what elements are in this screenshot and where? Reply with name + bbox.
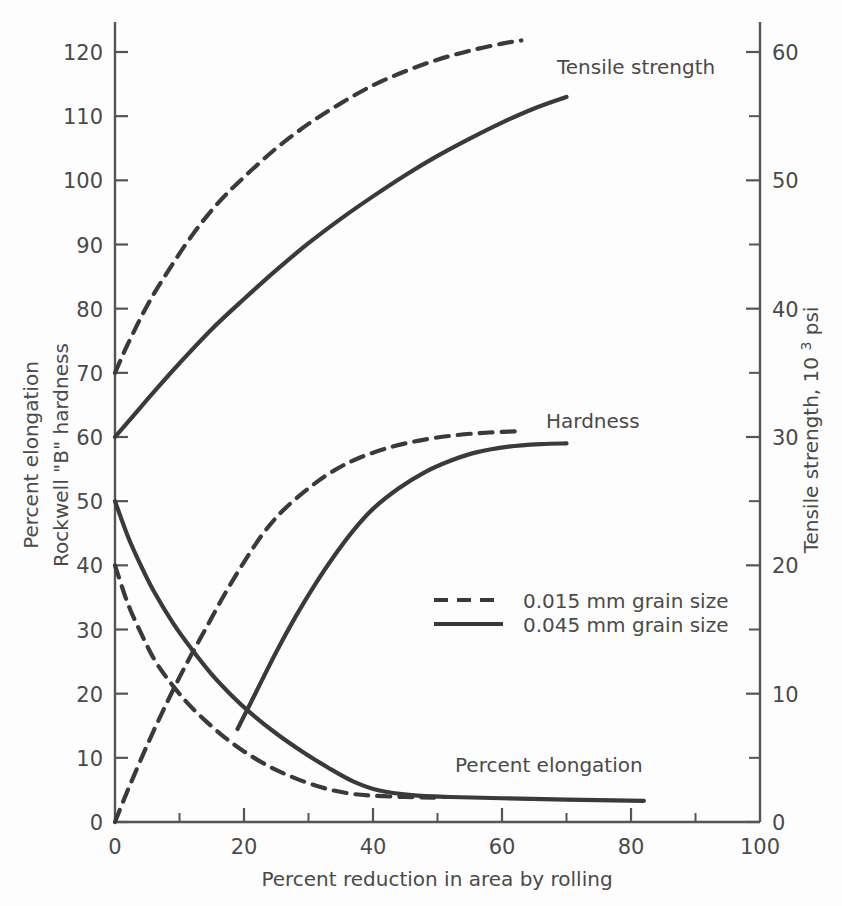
x-tick-label: 80 bbox=[618, 835, 645, 859]
chart-figure: 0102030405060708090100110120 01020304050… bbox=[0, 0, 842, 906]
annotation-percent-elongation: Percent elongation bbox=[455, 753, 643, 777]
y-tick-label-left: 50 bbox=[76, 490, 103, 514]
y-tick-label-right: 40 bbox=[772, 298, 799, 322]
y-axis-left-title-line1: Percent elongation bbox=[19, 361, 43, 549]
y-tick-label-right: 20 bbox=[772, 554, 799, 578]
annotation-tensile-strength: Tensile strength bbox=[556, 55, 715, 79]
y-axis-left-title-line2: Rockwell "B" hardness bbox=[49, 343, 73, 567]
axes bbox=[115, 22, 760, 822]
y-tick-label-right: 50 bbox=[772, 169, 799, 193]
y-tick-label-left: 100 bbox=[63, 169, 103, 193]
legend-label-dashed: 0.015 mm grain size bbox=[523, 589, 728, 613]
legend: 0.015 mm grain size 0.045 mm grain size bbox=[434, 589, 728, 637]
y-axis-right-unit-tail: psi bbox=[799, 307, 823, 336]
y-tick-label-left: 120 bbox=[63, 41, 103, 65]
y-tick-label-left: 90 bbox=[76, 234, 103, 258]
series-curve bbox=[238, 443, 567, 729]
y-axis-right-unit-exponent: 3 bbox=[798, 342, 814, 351]
x-axis-ticks: 020406080100 bbox=[108, 808, 780, 859]
y-tick-label-left: 60 bbox=[76, 426, 103, 450]
y-tick-label-right: 10 bbox=[772, 683, 799, 707]
y-tick-label-right: 0 bbox=[772, 811, 785, 835]
x-tick-label: 40 bbox=[360, 835, 387, 859]
y-tick-label-left: 40 bbox=[76, 554, 103, 578]
y-tick-label-left: 20 bbox=[76, 683, 103, 707]
x-tick-label: 60 bbox=[489, 835, 516, 859]
x-tick-label: 20 bbox=[231, 835, 258, 859]
y-tick-label-left: 80 bbox=[76, 298, 103, 322]
y-axis-right-ticks: 0102030405060 bbox=[746, 41, 799, 835]
y-tick-label-left: 10 bbox=[76, 747, 103, 771]
y-tick-label-right: 30 bbox=[772, 426, 799, 450]
y-tick-label-left: 110 bbox=[63, 105, 103, 129]
y-axis-right-title-text: Tensile strength, bbox=[799, 389, 823, 555]
annotation-hardness: Hardness bbox=[546, 409, 640, 433]
chart-canvas: 0102030405060708090100110120 01020304050… bbox=[0, 0, 842, 906]
y-tick-label-right: 60 bbox=[772, 41, 799, 65]
legend-label-solid: 0.045 mm grain size bbox=[523, 613, 728, 637]
y-tick-label-left: 0 bbox=[90, 811, 103, 835]
x-axis-title: Percent reduction in area by rolling bbox=[261, 867, 612, 891]
y-tick-label-left: 70 bbox=[76, 362, 103, 386]
y-axis-right-unit-base: 10 bbox=[799, 357, 823, 382]
series-curve bbox=[115, 40, 521, 372]
series-curve bbox=[115, 97, 567, 437]
y-tick-label-left: 30 bbox=[76, 619, 103, 643]
x-tick-label: 100 bbox=[740, 835, 780, 859]
x-tick-label: 0 bbox=[108, 835, 121, 859]
series-curve bbox=[115, 565, 438, 797]
